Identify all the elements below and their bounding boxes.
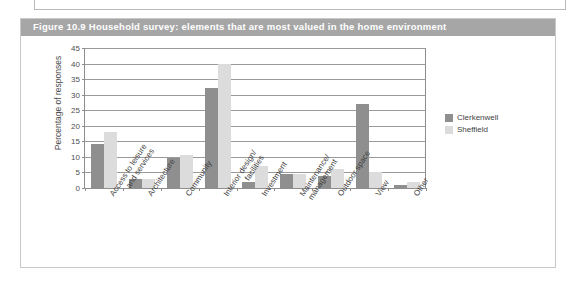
- bar-clerkenwell: [394, 185, 407, 188]
- bar-group: [388, 48, 426, 188]
- y-axis-tick-label: 10: [71, 152, 80, 161]
- y-axis-tick-label: 30: [71, 90, 80, 99]
- x-axis-tick-mark: [85, 188, 86, 191]
- y-axis-tick-label: 20: [71, 121, 80, 130]
- bar-sheffield: [104, 132, 117, 188]
- page-frame-remnant: [34, 0, 566, 10]
- bar-clerkenwell: [91, 144, 104, 188]
- bar-sheffield: [218, 64, 231, 188]
- y-axis-tick-label: 40: [71, 59, 80, 68]
- y-axis-tick-label: 25: [71, 106, 80, 115]
- x-axis-tick-mark: [161, 188, 162, 191]
- chart-area: Percentage of responses 0510152025303540…: [21, 36, 555, 267]
- figure-caption-bar: Figure 10.9 Household survey: elements t…: [21, 19, 555, 36]
- y-axis-tick-label: 15: [71, 137, 80, 146]
- x-axis-tick-mark: [350, 188, 351, 191]
- y-axis-tick-label: 45: [71, 44, 80, 53]
- legend-item: Clerkenwell: [445, 113, 498, 122]
- y-axis-tick-label: 0: [76, 184, 80, 193]
- plot-area: 051015202530354045 Access to leisureand …: [84, 48, 426, 189]
- figure-caption: Figure 10.9 Household survey: elements t…: [33, 21, 447, 32]
- figure-card: Figure 10.9 Household survey: elements t…: [20, 18, 556, 268]
- chart-legend: ClerkenwellSheffield: [445, 113, 498, 137]
- x-axis-tick-mark: [274, 188, 275, 191]
- y-axis-title: Percentage of responses: [53, 38, 63, 168]
- legend-item: Sheffield: [445, 125, 498, 134]
- x-axis-tick-mark: [388, 188, 389, 191]
- legend-swatch-icon: [445, 126, 453, 134]
- legend-swatch-icon: [445, 114, 453, 122]
- legend-label: Sheffield: [457, 125, 488, 134]
- x-axis-tick-mark: [199, 188, 200, 191]
- x-axis-tick-mark: [426, 188, 427, 191]
- y-axis-tick-label: 35: [71, 75, 80, 84]
- bar-group: [85, 48, 123, 188]
- y-axis-tick-label: 5: [76, 168, 80, 177]
- legend-label: Clerkenwell: [457, 113, 498, 122]
- bar-clerkenwell: [280, 174, 293, 188]
